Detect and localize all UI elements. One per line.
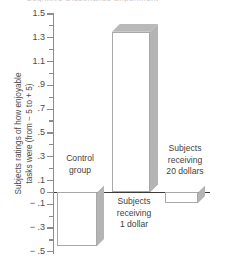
y-tick-minor xyxy=(49,120,54,121)
y-tick-minor xyxy=(49,216,54,217)
label-line-2: receiving xyxy=(157,155,213,167)
y-tick-minor xyxy=(49,49,54,50)
y-tick-label: .5 xyxy=(0,127,45,137)
y-tick-label: 1.3 xyxy=(0,32,45,42)
y-tick-label: − .3 xyxy=(0,222,45,232)
y-tick-major xyxy=(47,204,54,205)
y-tick-label: 1.1 xyxy=(0,56,45,66)
y-tick-label: − .5 xyxy=(0,246,45,256)
y-tick-label: − .1 xyxy=(0,198,45,208)
y-tick-minor xyxy=(49,97,54,98)
y-tick-major xyxy=(47,156,54,157)
label-line-2: group xyxy=(58,165,102,177)
label-line-3: 1 dollar xyxy=(108,219,160,231)
bar-side-panel xyxy=(198,185,205,203)
y-tick-major xyxy=(47,37,54,38)
y-tick-minor xyxy=(49,25,54,26)
bar-label-one-dollar: Subjects receiving 1 dollar xyxy=(108,196,160,231)
y-tick-major xyxy=(47,180,54,181)
y-tick-minor xyxy=(49,239,54,240)
bar-label-twenty-dollars: Subjects receiving 20 dollars xyxy=(157,143,213,178)
y-tick-minor xyxy=(49,144,54,145)
bar-face xyxy=(112,32,150,193)
bar-control-group[interactable] xyxy=(57,192,97,246)
y-tick-major xyxy=(47,85,54,86)
bar-side-panel xyxy=(97,185,104,246)
y-tick-major xyxy=(47,109,54,110)
bar-face xyxy=(57,192,97,246)
clipped-chart-title: Cognitive Dissonance Experiment xyxy=(26,0,166,2)
label-line-2: receiving xyxy=(108,208,160,220)
label-line-1: Control xyxy=(58,153,102,165)
label-line-3: 20 dollars xyxy=(157,166,213,178)
y-tick-label: 0 xyxy=(0,186,45,196)
y-tick-major xyxy=(47,251,54,252)
y-tick-minor xyxy=(49,168,54,169)
y-tick-minor xyxy=(49,73,54,74)
y-tick-major xyxy=(47,192,54,193)
y-tick-label: 1.5 xyxy=(0,8,45,18)
y-tick-label: .3 xyxy=(0,151,45,161)
y-tick-major xyxy=(47,132,54,133)
y-tick-label: .9 xyxy=(0,79,45,89)
y-tick-major xyxy=(47,13,54,14)
y-tick-label: .7 xyxy=(0,103,45,113)
bar-cap xyxy=(112,24,158,32)
bar-twenty-dollars[interactable] xyxy=(165,192,198,203)
bar-face xyxy=(165,192,198,203)
bar-label-control-group: Control group xyxy=(58,153,102,176)
y-tick-major xyxy=(47,227,54,228)
bar-chart: Cognitive Dissonance Experiment Subjects… xyxy=(0,0,225,267)
y-tick-label: .1 xyxy=(0,175,45,185)
bar-one-dollar[interactable] xyxy=(112,32,150,193)
y-tick-major xyxy=(47,61,54,62)
label-line-1: Subjects xyxy=(157,143,213,155)
label-line-1: Subjects xyxy=(108,196,160,208)
